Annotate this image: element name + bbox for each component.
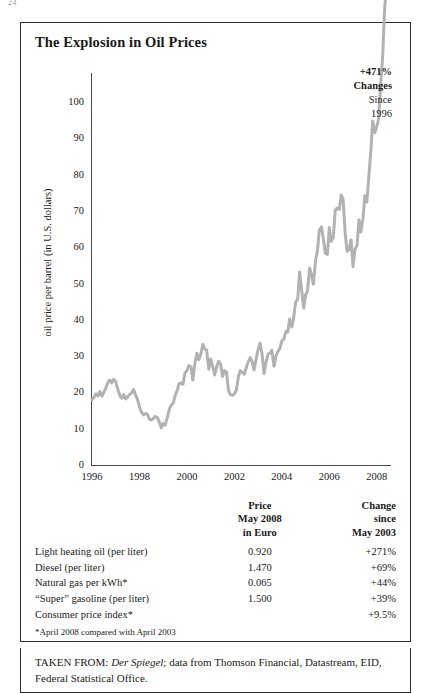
source-prefix: TAKEN FROM: [35,656,111,668]
row-change: +39% [310,591,410,607]
y-tick-label: 0 [50,460,84,471]
table-row: Consumer price index*+9.5% [21,607,410,623]
y-tick-label: 60 [50,242,84,253]
source-text: TAKEN FROM: Der Spiegel; data from Thoms… [35,655,396,686]
x-tick-label: 1996 [72,472,112,483]
y-tick-label: 50 [50,279,84,290]
table-row: “Super” gasoline (per liter)1.500+39% [21,591,410,607]
table-row: Diesel (per liter)1.470+69% [21,560,410,576]
row-price: 1.500 [210,591,310,607]
page-number: 24 [8,0,17,7]
figure-title: The Explosion in Oil Prices [35,34,207,51]
table-row: Natural gas per kWh*0.065+44% [21,576,410,592]
row-price: 0.065 [210,576,310,592]
callout-since-year: 1996 [300,107,392,121]
x-tick-label: 2004 [262,472,302,483]
callout-annotation: +471% Changes Since 1996 [300,65,392,120]
row-label: Consumer price index* [21,607,210,623]
row-change: +44% [310,576,410,592]
row-label: Natural gas per kWh* [21,576,210,592]
x-tick-label: 2008 [357,472,397,483]
column-header-price-line2: May 2008 [210,512,310,525]
figure-frame: The Explosion in Oil Prices oil price pe… [20,22,411,642]
column-header-change: Change since May 2003 [310,499,410,544]
callout-changes-label: Changes [300,79,392,93]
row-label: Diesel (per liter) [21,560,210,576]
table-header-row: Price May 2008 in Euro Change since May … [21,499,410,544]
chart-plot-area: oil price per barrel (in U.S. dollars) +… [21,61,410,513]
y-tick-label: 100 [50,97,84,108]
x-tick-label: 2002 [214,472,254,483]
x-tick-label: 2000 [167,472,207,483]
table-footnote: *April 2008 compared with April 2003 [35,627,176,637]
y-tick-label: 70 [50,206,84,217]
x-tick-label: 2006 [309,472,349,483]
column-header-price-line1: Price [210,499,310,512]
column-header-label [21,499,210,544]
y-tick-label: 20 [50,387,84,398]
source-region: TAKEN FROM: Der Spiegel; data from Thoms… [20,648,411,693]
row-price: 1.470 [210,560,310,576]
y-tick-label: 90 [50,133,84,144]
y-tick-label: 30 [50,351,84,362]
row-label: “Super” gasoline (per liter) [21,591,210,607]
column-header-change-line2: since [310,512,396,525]
row-change: +9.5% [310,607,410,623]
callout-since-label: Since [300,93,392,107]
table-body: Light heating oil (per liter)0.920+271%D… [21,544,410,622]
y-tick-label: 80 [50,170,84,181]
row-price [210,607,310,623]
row-label: Light heating oil (per liter) [21,544,210,560]
source-publication: Der Spiegel [111,656,163,668]
column-header-price-line3: in Euro [210,526,310,539]
comparison-table: Price May 2008 in Euro Change since May … [21,499,410,623]
row-change: +69% [310,560,410,576]
column-header-change-line1: Change [310,499,396,512]
column-header-price: Price May 2008 in Euro [210,499,310,544]
y-tick-label: 40 [50,315,84,326]
y-tick-label: 10 [50,424,84,435]
callout-percent: +471% [300,65,392,79]
table-row: Light heating oil (per liter)0.920+271% [21,544,410,560]
x-tick-label: 1998 [119,472,159,483]
row-change: +271% [310,544,410,560]
row-price: 0.920 [210,544,310,560]
column-header-change-line3: May 2003 [310,526,396,539]
